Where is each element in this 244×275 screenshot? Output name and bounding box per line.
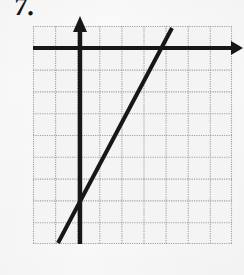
coordinate-graph-figure [0, 0, 244, 275]
y-axis-arrow-icon [73, 16, 87, 32]
worksheet-page: 7. [0, 0, 244, 275]
graph-svg [0, 0, 244, 275]
x-axis-arrow-icon [231, 41, 243, 55]
